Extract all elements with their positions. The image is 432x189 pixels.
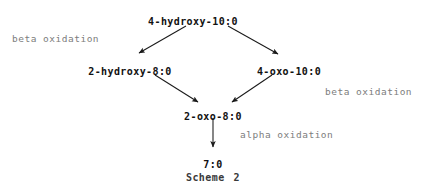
pathway-annotation: beta oxidation: [12, 33, 99, 45]
compound-node: 2-hydroxy-8:0: [88, 66, 171, 78]
reaction-arrow: [228, 26, 278, 54]
compound-node: 4-oxo-10:0: [257, 66, 321, 78]
scheme-caption-number: 2: [234, 172, 240, 183]
compound-node: 4-hydroxy-10:0: [148, 16, 238, 28]
scheme-caption: Scheme2: [186, 172, 240, 183]
scheme-caption-label: Scheme: [186, 172, 225, 183]
compound-node: 2-oxo-8:0: [184, 111, 242, 123]
scheme-diagram: 4-hydroxy-10:02-hydroxy-8:04-oxo-10:02-o…: [0, 0, 432, 189]
reaction-arrow: [232, 75, 272, 102]
reaction-arrow: [139, 26, 186, 53]
pathway-annotation: alpha oxidation: [240, 129, 333, 141]
pathway-annotation: beta oxidation: [325, 86, 412, 98]
reaction-arrow: [155, 75, 198, 102]
compound-node: 7:0: [203, 159, 222, 171]
